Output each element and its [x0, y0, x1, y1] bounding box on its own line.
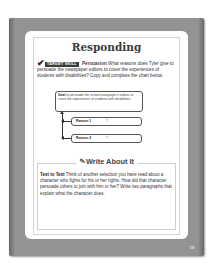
reason-box-2: Reason 2 ?	[71, 134, 142, 143]
reason-label: Reason 1	[76, 119, 91, 123]
write-about-it-heading: ✎Write About It	[76, 157, 137, 166]
page-content: Responding ✔TARGET SKILL Persuasion What…	[33, 37, 180, 235]
page-number: 19	[190, 246, 194, 250]
reason-box-1: Reason 1 ?	[71, 117, 142, 126]
target-skill-prompt: ✔TARGET SKILL Persuasion What reasons do…	[37, 60, 177, 80]
persuasion-chart: Goal to persuade the school newspaper's …	[54, 91, 172, 151]
pencil-icon: ✎	[78, 158, 85, 167]
goal-text: to persuade the school newspaper's edito…	[58, 93, 133, 101]
page-title: Responding	[34, 41, 179, 53]
arrow-left-icon	[61, 136, 64, 140]
connector-line	[62, 112, 63, 139]
goal-box: Goal to persuade the school newspaper's …	[55, 91, 143, 112]
textbook-page: Responding ✔TARGET SKILL Persuasion What…	[25, 31, 188, 239]
reason-value: ?	[106, 135, 108, 142]
reason-value: ?	[106, 118, 108, 125]
reason-label: Reason 2	[76, 136, 91, 140]
arrow-left-icon	[61, 119, 64, 123]
write-about-it-title: Write About It	[86, 157, 134, 166]
text-to-text-label: Text to Text	[40, 172, 65, 177]
write-about-it-section: ✎Write About It Text to Text Think of an…	[37, 163, 176, 230]
page-frame: Responding ✔TARGET SKILL Persuasion What…	[9, 18, 204, 256]
skill-name: Persuasion	[82, 61, 107, 66]
checkmark-icon: ✔	[37, 60, 45, 66]
write-about-it-text: Text to Text Think of another selection …	[40, 172, 173, 197]
